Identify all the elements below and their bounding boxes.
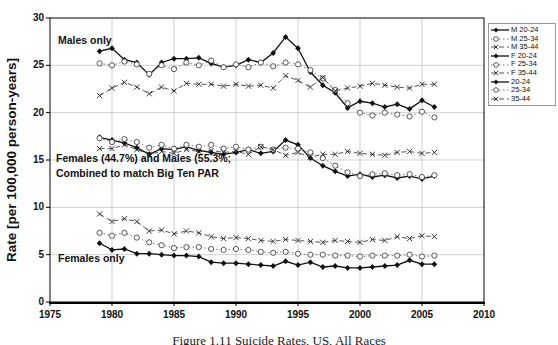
legend-marker-diamond-filled — [491, 26, 509, 34]
diamond-marker — [258, 262, 264, 268]
open-circle-marker — [109, 139, 114, 144]
open-circle-marker — [345, 170, 350, 175]
open-circle-marker — [283, 145, 288, 150]
open-circle-marker — [271, 64, 276, 69]
x-tick-label: 1990 — [216, 309, 256, 320]
diamond-marker — [332, 263, 338, 269]
open-circle-marker — [147, 71, 152, 76]
open-circle-marker — [395, 173, 400, 178]
legend-marker-x — [491, 69, 509, 77]
open-circle-marker — [184, 244, 189, 249]
diamond-marker — [382, 104, 388, 110]
x-tick-label: 2000 — [340, 309, 380, 320]
open-circle-marker — [395, 253, 400, 258]
annotation-combined-line2: Combined to match Big Ten PAR — [56, 166, 231, 181]
annotation-combined-line1: Females (44.7%) and Males (55.3%; — [56, 151, 231, 166]
open-circle-marker — [97, 61, 102, 66]
open-circle-marker — [233, 246, 238, 251]
open-circle-marker — [159, 243, 164, 248]
open-circle-marker — [333, 87, 338, 92]
open-circle-marker — [407, 172, 412, 177]
open-circle-marker — [184, 60, 189, 65]
open-circle-marker — [407, 252, 412, 257]
open-circle-marker — [345, 101, 350, 106]
open-circle-marker — [184, 142, 189, 147]
open-circle-marker — [159, 142, 164, 147]
diamond-marker — [407, 257, 413, 263]
open-circle-marker — [308, 252, 313, 257]
open-circle-marker — [246, 65, 251, 70]
y-tick-label: 5 — [14, 249, 44, 260]
diamond-marker — [357, 265, 363, 271]
diamond-marker — [432, 261, 438, 267]
figure-caption: Figure 1.11 Suicide Rates, US, All Races — [0, 333, 558, 345]
diamond-marker — [171, 56, 177, 62]
open-circle-marker — [221, 65, 226, 70]
open-circle-marker — [432, 115, 437, 120]
annotation-females-only: Females only — [58, 251, 125, 266]
open-circle-marker — [407, 114, 412, 119]
x-tick-label: 1980 — [92, 309, 132, 320]
open-circle-marker — [196, 63, 201, 68]
legend-label: 35-44 — [511, 95, 530, 104]
diamond-marker — [432, 104, 438, 110]
diamond-marker — [233, 260, 239, 266]
open-circle-marker — [233, 144, 238, 149]
open-circle-marker — [258, 60, 263, 65]
diamond-marker — [97, 48, 103, 54]
open-circle-marker — [134, 139, 139, 144]
legend-marker-circle-open — [491, 86, 509, 94]
y-tick-label: 10 — [14, 201, 44, 212]
open-circle-marker — [382, 171, 387, 176]
open-circle-marker — [122, 230, 127, 235]
chart-legend: M 20-24M 25-34M 35-44F 20-24F 25-34F 35-… — [488, 23, 556, 106]
open-circle-marker — [109, 233, 114, 238]
legend-marker-diamond-filled — [491, 52, 509, 60]
diamond-marker — [295, 262, 301, 268]
open-circle-marker — [432, 173, 437, 178]
open-circle-marker — [283, 249, 288, 254]
open-circle-marker — [209, 142, 214, 147]
open-circle-marker — [419, 174, 424, 179]
diamond-marker — [370, 264, 376, 270]
y-tick-label: 25 — [14, 59, 44, 70]
open-circle-marker — [122, 137, 127, 142]
open-circle-marker — [345, 253, 350, 258]
open-circle-marker — [122, 59, 127, 64]
open-circle-marker — [295, 251, 300, 256]
diamond-marker — [357, 98, 363, 104]
open-circle-marker — [196, 244, 201, 249]
open-circle-marker — [308, 67, 313, 72]
open-circle-marker — [233, 62, 238, 67]
diamond-marker — [332, 168, 338, 174]
diamond-marker — [97, 240, 103, 246]
diamond-marker — [320, 163, 326, 169]
legend-marker-diamond-filled — [491, 78, 509, 86]
open-circle-marker — [134, 62, 139, 67]
open-circle-marker — [382, 110, 387, 115]
x-tick-label: 2010 — [464, 309, 504, 320]
diamond-marker — [283, 258, 289, 264]
diamond-marker — [246, 57, 252, 63]
open-circle-marker — [147, 240, 152, 245]
open-circle-marker — [357, 173, 362, 178]
diamond-marker — [370, 100, 376, 106]
open-circle-marker — [97, 136, 102, 141]
open-circle-marker — [395, 112, 400, 117]
suicide-rate-line-chart: Rate [per 100,000 person-years] 05101520… — [0, 0, 558, 345]
annotation-combined: Females (44.7%) and Males (55.3%; Combin… — [56, 151, 231, 181]
open-circle-marker — [246, 247, 251, 252]
open-circle-marker — [147, 145, 152, 150]
diamond-marker — [382, 263, 388, 269]
y-tick-label: 0 — [14, 296, 44, 307]
diamond-marker — [233, 149, 239, 155]
diamond-marker — [208, 259, 214, 265]
legend-marker-circle-open — [491, 35, 509, 43]
open-circle-marker — [171, 67, 176, 72]
diamond-marker — [171, 253, 177, 259]
open-circle-marker — [209, 246, 214, 251]
open-circle-marker — [159, 63, 164, 68]
open-circle-marker — [196, 144, 201, 149]
open-circle-marker — [333, 163, 338, 168]
x-tick-label: 2005 — [402, 309, 442, 320]
